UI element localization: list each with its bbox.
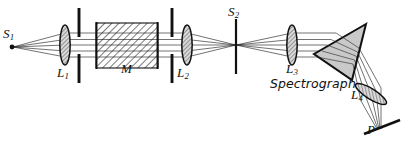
optical-ray-diagram: S1 L1 M L2 S2 L3 Spectrograph L4 P — [0, 0, 402, 145]
lens-3 — [287, 25, 297, 65]
label-spectrograph: Spectrograph — [270, 78, 356, 91]
label-plate-p: P — [367, 123, 375, 136]
label-lens-1: L1 — [57, 66, 69, 81]
ray-bundle-slit-to-lens3 — [236, 33, 292, 57]
lens-2 — [182, 25, 192, 65]
label-source-s1: S1 — [3, 27, 14, 42]
lens-1 — [60, 25, 70, 65]
label-slit-s2: S2 — [228, 5, 239, 20]
ray-bundle-source-to-lens1 — [13, 33, 65, 57]
point-source-dot — [10, 45, 15, 50]
label-lens-2: L2 — [177, 66, 189, 81]
ray-bundle-lens2-to-slit — [187, 33, 236, 57]
label-sample-m: M — [121, 62, 132, 75]
label-lens-4: L4 — [351, 88, 363, 103]
